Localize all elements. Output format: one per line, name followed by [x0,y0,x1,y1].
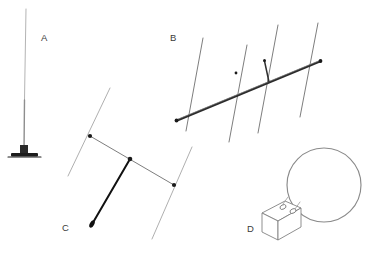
beam-driven-node [172,183,176,187]
label-d: D [247,223,254,234]
figure-background [0,0,369,257]
whip-ground-plate [11,153,38,157]
beam-reflector-node [88,134,92,138]
beam-feedpoint-node [128,157,133,162]
yagi-driven-node [235,72,238,75]
antenna-figure: A B C [0,0,369,257]
antenna-diagram-canvas: A B C [0,0,369,257]
yagi-boom-rear-node [175,119,179,123]
label-c: C [62,222,69,233]
whip-base-insulator [20,145,28,154]
yagi-feed-node [263,59,266,62]
label-a: A [41,32,48,43]
whip-lower-mast [24,100,25,152]
yagi-boom-front-node [319,59,323,63]
label-b: B [170,32,177,43]
